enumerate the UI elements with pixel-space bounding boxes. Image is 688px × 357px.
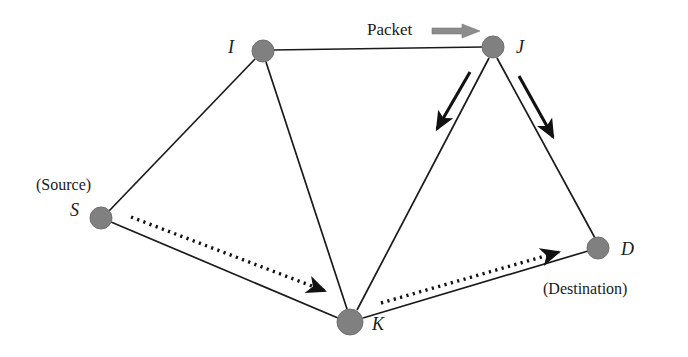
dotted-arrow-k-to-d bbox=[381, 252, 559, 303]
edge-s-k bbox=[111, 222, 338, 318]
node-k[interactable] bbox=[337, 309, 363, 335]
network-diagram: I J S K D (Source) (Destination) Packet bbox=[0, 0, 688, 357]
node-label-s: S bbox=[70, 201, 79, 219]
packet-arrow-icon bbox=[432, 24, 480, 38]
node-j[interactable] bbox=[482, 36, 504, 58]
arrow-j-to-k bbox=[437, 72, 470, 129]
node-i[interactable] bbox=[252, 40, 274, 62]
node-label-k: K bbox=[372, 315, 384, 333]
node-group bbox=[90, 36, 609, 335]
node-label-d: D bbox=[621, 240, 634, 258]
dotted-arrow-s-to-k bbox=[131, 217, 325, 291]
node-label-j: J bbox=[516, 38, 524, 56]
node-s[interactable] bbox=[90, 207, 112, 229]
edge-i-j bbox=[272, 47, 483, 50]
node-label-i: I bbox=[228, 38, 234, 56]
packet-caption: Packet bbox=[367, 21, 412, 38]
node-d[interactable] bbox=[587, 237, 609, 259]
route-arrow-group bbox=[131, 217, 559, 303]
edge-j-d bbox=[497, 58, 595, 238]
edge-group bbox=[109, 47, 595, 318]
network-graph-canvas bbox=[0, 0, 688, 357]
destination-caption: (Destination) bbox=[543, 281, 627, 297]
edge-k-j bbox=[357, 58, 489, 310]
edge-s-i bbox=[109, 59, 255, 211]
source-caption: (Source) bbox=[36, 177, 91, 193]
edge-i-k bbox=[266, 62, 347, 309]
